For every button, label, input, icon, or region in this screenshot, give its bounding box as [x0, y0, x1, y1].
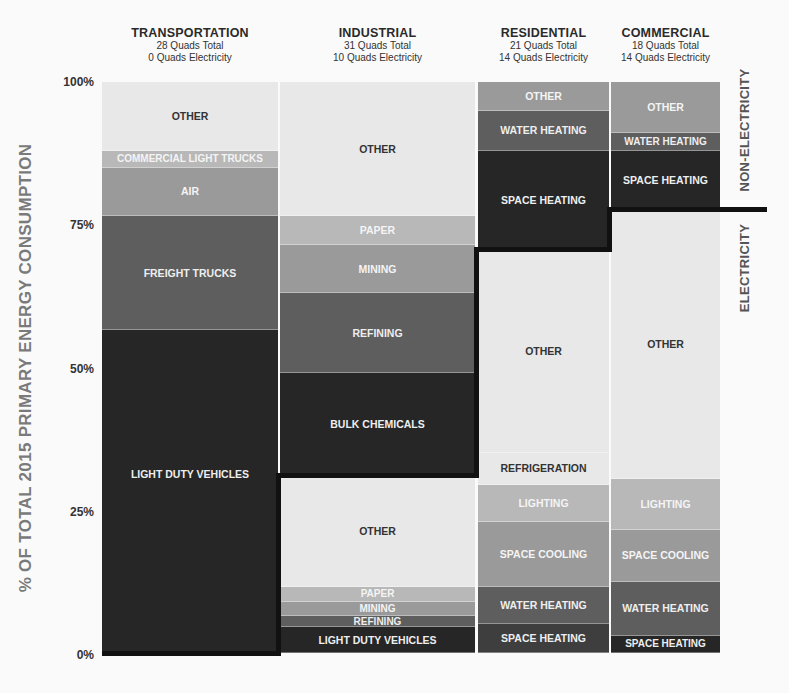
segment-label: COMMERCIAL LIGHT TRUCKS	[117, 153, 263, 164]
segment-industrial-electricity-refining: REFINING	[280, 616, 475, 627]
segment-industrial-electricity-mining: MINING	[280, 602, 475, 616]
segment-label: OTHER	[525, 90, 562, 102]
segment-commercial-electricity-water-heating: WATER HEATING	[611, 582, 720, 636]
segment-residential-non-electricity-space-heating: SPACE HEATING	[478, 151, 609, 251]
segment-transportation-non-electricity-other: OTHER	[102, 82, 278, 151]
segment-industrial-electricity-light-duty-vehicles: LIGHT DUTY VEHICLES	[280, 627, 475, 653]
segment-residential-non-electricity-water-heating: WATER HEATING	[478, 111, 609, 151]
segment-industrial-electricity-paper: PAPER	[280, 587, 475, 601]
segment-label: OTHER	[525, 345, 562, 357]
y-tick-50: 50%	[52, 362, 94, 376]
segment-industrial-non-electricity-paper: PAPER	[280, 216, 475, 245]
column-header-transportation: TRANSPORTATION28 Quads Total0 Quads Elec…	[102, 26, 278, 64]
segment-label: OTHER	[359, 525, 396, 537]
segment-commercial-electricity-lighting: LIGHTING	[611, 479, 720, 530]
segment-label: LIGHT DUTY VEHICLES	[131, 468, 249, 480]
segment-label: SPACE COOLING	[622, 549, 709, 561]
electricity-label: ELECTRICITY	[737, 224, 752, 313]
y-tick-100: 100%	[52, 75, 94, 89]
segment-label: SPACE HEATING	[501, 194, 586, 206]
segment-commercial-electricity-space-heating: SPACE HEATING	[611, 636, 720, 653]
segment-label: MINING	[359, 603, 395, 614]
segment-label: SPACE COOLING	[500, 548, 587, 560]
divider-step-3	[607, 207, 612, 252]
segment-label: PAPER	[360, 224, 395, 236]
electricity-quads-label: 14 Quads Electricity	[478, 52, 609, 64]
y-tick-0: 0%	[52, 648, 94, 662]
electricity-quads-label: 14 Quads Electricity	[611, 52, 720, 64]
segment-industrial-electricity-other: OTHER	[280, 476, 475, 587]
segment-residential-electricity-other: OTHER	[478, 250, 609, 453]
segment-commercial-non-electricity-other: OTHER	[611, 82, 720, 133]
segment-label: LIGHT DUTY VEHICLES	[318, 634, 436, 646]
segment-residential-non-electricity-other: OTHER	[478, 82, 609, 111]
divider-industrial	[276, 473, 476, 478]
column-header-residential: RESIDENTIAL21 Quads Total14 Quads Electr…	[478, 26, 609, 64]
y-axis-label: % OF TOTAL 2015 PRIMARY ENERGY CONSUMPTI…	[16, 144, 36, 593]
segment-label: OTHER	[359, 143, 396, 155]
segment-residential-electricity-lighting: LIGHTING	[478, 485, 609, 522]
segment-residential-electricity-space-heating: SPACE HEATING	[478, 624, 609, 653]
column-title: COMMERCIAL	[611, 26, 720, 40]
column-title: TRANSPORTATION	[102, 26, 278, 40]
total-quads-label: 21 Quads Total	[478, 40, 609, 52]
segment-residential-electricity-refrigeration: REFRIGERATION	[478, 453, 609, 484]
segment-label: WATER HEATING	[500, 124, 587, 136]
segment-label: SPACE HEATING	[501, 632, 586, 644]
divider-residential	[474, 247, 611, 252]
segment-transportation-non-electricity-freight-trucks: FREIGHT TRUCKS	[102, 216, 278, 330]
column-header-commercial: COMMERCIAL18 Quads Total14 Quads Electri…	[611, 26, 720, 64]
segment-label: SPACE HEATING	[623, 174, 708, 186]
column-title: INDUSTRIAL	[280, 26, 475, 40]
segment-label: LIGHTING	[518, 497, 568, 509]
segment-industrial-non-electricity-other: OTHER	[280, 82, 475, 216]
segment-label: LIGHTING	[640, 498, 690, 510]
segment-label: PAPER	[361, 588, 395, 599]
segment-transportation-non-electricity-light-duty-vehicles: LIGHT DUTY VEHICLES	[102, 330, 278, 653]
segment-label: WATER HEATING	[624, 136, 706, 147]
total-quads-label: 28 Quads Total	[102, 40, 278, 52]
segment-label: OTHER	[647, 101, 684, 113]
segment-label: REFINING	[354, 616, 402, 627]
non-electricity-label: NON-ELECTRICITY	[737, 69, 752, 192]
column-title: RESIDENTIAL	[478, 26, 609, 40]
segment-commercial-electricity-space-cooling: SPACE COOLING	[611, 530, 720, 581]
divider-transport-bottom	[102, 651, 278, 656]
divider-step-2	[474, 247, 479, 478]
segment-label: OTHER	[647, 338, 684, 350]
electricity-quads-label: 10 Quads Electricity	[280, 52, 475, 64]
segment-industrial-non-electricity-bulk-chemicals: BULK CHEMICALS	[280, 373, 475, 476]
marimekko-chart: % OF TOTAL 2015 PRIMARY ENERGY CONSUMPTI…	[0, 0, 789, 693]
segment-commercial-electricity-other: OTHER	[611, 210, 720, 478]
segment-label: AIR	[181, 185, 199, 197]
segment-residential-electricity-space-cooling: SPACE COOLING	[478, 522, 609, 588]
total-quads-label: 31 Quads Total	[280, 40, 475, 52]
column-header-industrial: INDUSTRIAL31 Quads Total10 Quads Electri…	[280, 26, 475, 64]
segment-label: REFINING	[352, 327, 402, 339]
segment-label: SPACE HEATING	[625, 638, 706, 649]
segment-industrial-non-electricity-mining: MINING	[280, 245, 475, 294]
electricity-quads-label: 0 Quads Electricity	[102, 52, 278, 64]
segment-commercial-non-electricity-space-heating: SPACE HEATING	[611, 151, 720, 211]
y-tick-75: 75%	[52, 218, 94, 232]
segment-label: WATER HEATING	[622, 602, 709, 614]
segment-transportation-non-electricity-air: AIR	[102, 168, 278, 217]
segment-industrial-non-electricity-refining: REFINING	[280, 293, 475, 373]
segment-commercial-non-electricity-water-heating: WATER HEATING	[611, 133, 720, 150]
segment-label: FREIGHT TRUCKS	[144, 267, 237, 279]
divider-commercial	[607, 207, 767, 212]
y-tick-25: 25%	[52, 505, 94, 519]
segment-transportation-non-electricity-commercial-light-trucks: COMMERCIAL LIGHT TRUCKS	[102, 151, 278, 168]
segment-label: BULK CHEMICALS	[330, 418, 425, 430]
segment-label: REFRIGERATION	[500, 462, 586, 474]
segment-label: OTHER	[172, 110, 209, 122]
segment-label: MINING	[359, 263, 397, 275]
segment-residential-electricity-water-heating: WATER HEATING	[478, 587, 609, 624]
segment-label: WATER HEATING	[500, 599, 587, 611]
divider-step-1	[276, 473, 281, 656]
total-quads-label: 18 Quads Total	[611, 40, 720, 52]
